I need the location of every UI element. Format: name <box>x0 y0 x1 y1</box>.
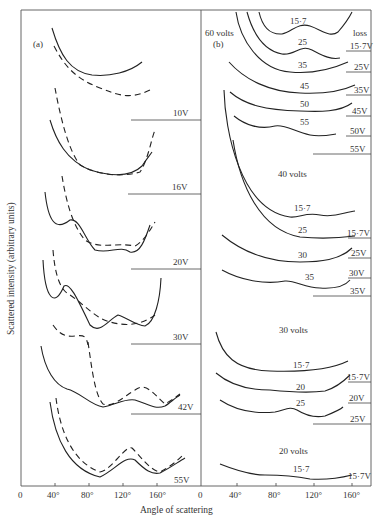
curve-label-60-45: 45 <box>300 81 310 91</box>
xtick-a-120: 120° <box>114 490 132 500</box>
loss-header: loss <box>353 28 368 38</box>
panel-b-label: (b) <box>213 39 224 49</box>
curve-20v-15.7 <box>220 464 352 479</box>
curve-10v-solid <box>52 28 142 75</box>
xtick-b-40: 40° <box>229 490 242 500</box>
curve-label-30-15.7: 15·7 <box>293 360 310 370</box>
curve-label-60-35: 35 <box>298 60 308 70</box>
x-axis-label: Angle of scattering <box>140 505 213 515</box>
curve-16v-dash <box>55 88 155 175</box>
group-title-60v: 60 volts <box>205 28 234 38</box>
curve-label-40-25: 25 <box>298 225 308 235</box>
curve-30v-dash <box>53 250 155 324</box>
curve-20v-dash <box>62 176 155 246</box>
xtick-b-80: 80° <box>268 490 281 500</box>
loss-label-60-55: 55V <box>350 144 366 154</box>
label-55v: 55V <box>174 475 190 485</box>
xtick-a-80: 80° <box>81 490 94 500</box>
curve-label-60-55: 55 <box>300 117 310 127</box>
curve-label-60-25: 25 <box>298 37 308 47</box>
label-10v: 10V <box>173 108 189 118</box>
label-30v: 30V <box>173 332 189 342</box>
loss-label-60-15.7: 15·7V <box>350 41 373 51</box>
curve-label-30-20: 20 <box>296 382 306 392</box>
curve-label-40-15.7: 15·7 <box>294 203 311 213</box>
group-title-20v: 20 volts <box>279 446 308 456</box>
loss-label-30-15.7: 15·7V <box>347 372 370 382</box>
group-title-30v: 30 volts <box>279 325 308 335</box>
loss-label-30-20: 20V <box>349 393 365 403</box>
curve-20v-solid <box>45 192 150 252</box>
curve-42v-dash <box>88 342 180 405</box>
loss-label-60-25: 25V <box>354 62 370 72</box>
curve-label-60-15.7: 15·7 <box>290 16 307 26</box>
curve-label-40-35: 35 <box>305 272 315 282</box>
xtick-b-120: 120° <box>305 490 323 500</box>
xtick-a-0: 0 <box>18 490 23 500</box>
curve-40v-35 <box>222 270 350 288</box>
curve-30v-15.7 <box>216 332 348 371</box>
curve-60v-55 <box>234 116 336 136</box>
loss-label-30-25: 25V <box>350 414 366 424</box>
curve-30v-25 <box>220 400 343 417</box>
curve-label-30-25: 25 <box>296 398 306 408</box>
loss-label-60-35: 35V <box>354 85 370 95</box>
panel-a-curves <box>41 28 201 477</box>
curve-60v-50 <box>230 92 352 111</box>
curve-label-60-50: 50 <box>300 99 310 109</box>
group-title-40v: 40 volts <box>278 169 307 179</box>
curve-30v-dash-lower <box>53 325 88 345</box>
curve-10v-dash <box>54 46 150 96</box>
xtick-a-40: 40° <box>47 490 60 500</box>
xtick-a-160: 160° <box>149 490 167 500</box>
loss-label-40-30: 30V <box>349 268 365 278</box>
curve-40v-25 <box>233 140 355 238</box>
curve-42v-solid <box>41 346 180 407</box>
curve-30v-solid <box>43 260 161 328</box>
figure-canvas: Scattered intensity (arbitrary units) (a… <box>0 0 381 521</box>
label-16v: 16V <box>172 182 188 192</box>
xtick-b-160: 160° <box>343 490 361 500</box>
y-axis-label: Scattered intensity (arbitrary units) <box>6 202 17 335</box>
curve-label-20-15.7: 15·7 <box>293 464 310 474</box>
curve-40v-30 <box>222 235 352 262</box>
curve-40v-15.7 <box>224 90 355 217</box>
loss-label-20-15.7: 15·7V <box>348 471 371 481</box>
label-42v: 42V <box>178 402 194 412</box>
curve-16v-solid <box>50 120 152 175</box>
panel-a-label: (a) <box>33 39 43 49</box>
curve-30v-20 <box>216 373 350 392</box>
panel-b-curves <box>216 12 355 479</box>
xtick-b-0: 0 <box>198 490 203 500</box>
loss-label-40-35: 35V <box>350 286 366 296</box>
curve-55v-solid <box>50 402 185 477</box>
loss-label-60-50: 50V <box>350 126 366 136</box>
loss-label-40-15.7: 15·7V <box>347 228 370 238</box>
loss-label-60-45: 45V <box>352 106 368 116</box>
curve-label-40-30: 30 <box>298 250 308 260</box>
loss-label-40-25: 25V <box>351 248 367 258</box>
curve-55v-dash <box>56 398 182 472</box>
label-20v: 20V <box>173 257 189 267</box>
